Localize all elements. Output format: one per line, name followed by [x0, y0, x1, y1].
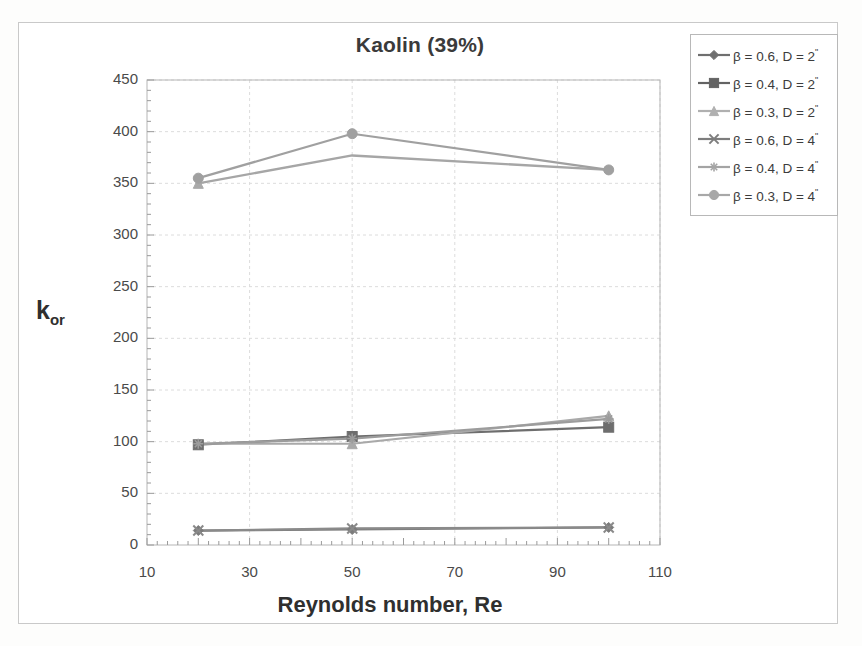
- data-point-circle: [709, 190, 718, 199]
- y-tick-label: 100: [78, 432, 138, 449]
- legend-marker-circle-icon: [697, 186, 731, 204]
- data-point-square: [709, 78, 718, 87]
- y-tick-label: 250: [78, 277, 138, 294]
- legend-item-0[interactable]: β = 0.6, D = 2": [697, 41, 833, 69]
- legend-item-3[interactable]: β = 0.6, D = 4": [697, 125, 833, 153]
- chart-figure: Kaolin (39%) kor Reynolds number, Re 450…: [0, 0, 862, 646]
- legend-item-2[interactable]: β = 0.3, D = 2": [697, 97, 833, 125]
- data-point-circle: [604, 165, 614, 175]
- data-point-diamond: [709, 50, 718, 59]
- legend-marker-diamond-icon: [697, 46, 731, 64]
- legend-label: β = 0.6, D = 2": [731, 47, 818, 64]
- y-tick-label: 350: [78, 173, 138, 190]
- y-tick-label: 200: [78, 328, 138, 345]
- legend-label: β = 0.6, D = 4": [731, 131, 818, 148]
- data-point-star: [709, 162, 718, 171]
- legend-label: β = 0.3, D = 4": [731, 187, 818, 204]
- y-tick-label: 50: [78, 483, 138, 500]
- x-tick-label: 90: [527, 563, 587, 580]
- plot-background: [147, 80, 660, 545]
- y-tick-label: 0: [78, 535, 138, 552]
- legend-item-5[interactable]: β = 0.3, D = 4": [697, 181, 833, 209]
- legend-label: β = 0.4, D = 4": [731, 159, 818, 176]
- chart-legend: β = 0.6, D = 2"β = 0.4, D = 2"β = 0.3, D…: [690, 34, 838, 216]
- x-tick-label: 50: [322, 563, 382, 580]
- data-point-star: [347, 434, 357, 444]
- y-tick-label: 150: [78, 380, 138, 397]
- data-point-circle: [193, 173, 203, 183]
- legend-marker-star-icon: [697, 158, 731, 176]
- legend-label: β = 0.3, D = 2": [731, 103, 818, 120]
- y-tick-label: 400: [78, 122, 138, 139]
- legend-label: β = 0.4, D = 2": [731, 75, 818, 92]
- legend-item-4[interactable]: β = 0.4, D = 4": [697, 153, 833, 181]
- y-tick-label: 450: [78, 70, 138, 87]
- data-point-star: [193, 439, 203, 449]
- legend-item-1[interactable]: β = 0.4, D = 2": [697, 69, 833, 97]
- x-tick-label: 10: [117, 563, 177, 580]
- x-tick-label: 30: [220, 563, 280, 580]
- data-point-star: [604, 414, 614, 424]
- x-tick-label: 70: [425, 563, 485, 580]
- y-tick-label: 300: [78, 225, 138, 242]
- data-point-circle: [347, 129, 357, 139]
- legend-marker-triangle-icon: [697, 102, 731, 120]
- legend-marker-square-icon: [697, 74, 731, 92]
- x-tick-label: 110: [630, 563, 690, 580]
- legend-marker-x-icon: [697, 130, 731, 148]
